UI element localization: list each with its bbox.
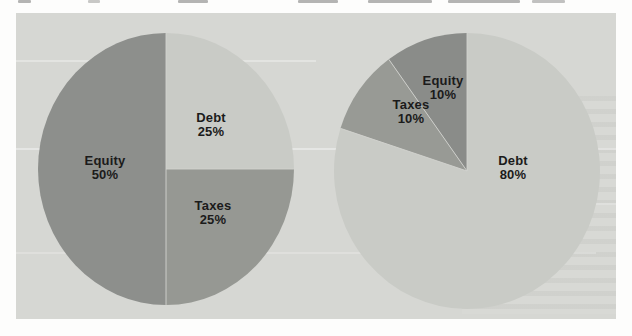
capital-structure-pie-left-slice-taxes xyxy=(166,169,294,305)
pie-charts-canvas: Debt25%Taxes25%Equity50%Debt80%Taxes10%E… xyxy=(0,0,632,336)
capital-structure-pie-left-label-taxes: Taxes25% xyxy=(195,198,232,227)
capital-structure-pie-left-slice-debt xyxy=(166,33,294,169)
scanned-figure-page: Debt25%Taxes25%Equity50%Debt80%Taxes10%E… xyxy=(0,0,632,336)
capital-structure-pie-right-label-debt: Debt80% xyxy=(498,153,528,182)
capital-structure-pie-left-label-debt: Debt25% xyxy=(196,110,226,139)
capital-structure-pie-right-label-taxes: Taxes10% xyxy=(393,97,430,126)
